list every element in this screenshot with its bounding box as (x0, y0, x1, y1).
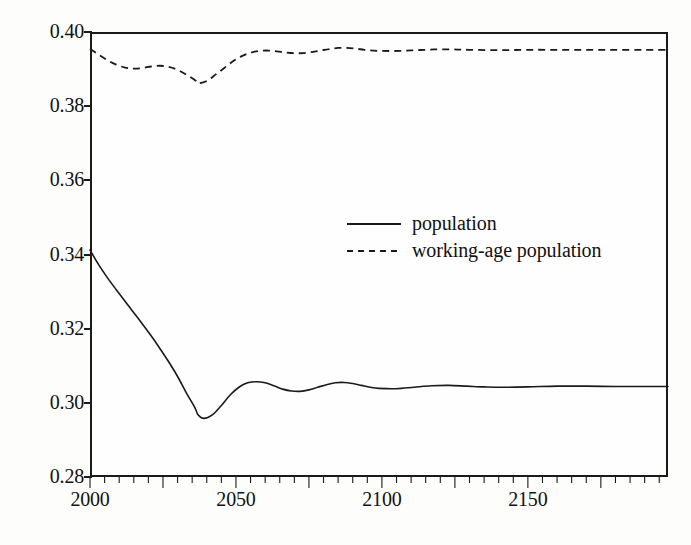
legend-item-working-age-population: working-age population (346, 237, 601, 264)
x-tick-label-2050: 2050 (181, 489, 291, 509)
y-tick-label: 0.36 (22, 169, 84, 189)
y-tick-label: 0.28 (22, 466, 84, 486)
y-tick-label: 0.38 (22, 95, 84, 115)
legend-item-population: population (346, 210, 601, 237)
legend-swatch-dashed-line (346, 244, 402, 258)
legend-label-population: population (402, 212, 497, 235)
y-tick-label: 0.32 (22, 318, 84, 338)
chart-figure: 0.400.380.360.340.320.300.28 20002050210… (0, 0, 691, 545)
y-tick-label: 0.34 (22, 244, 84, 264)
y-tick-label: 0.40 (22, 21, 84, 41)
x-tick-label-2000: 2000 (35, 489, 145, 509)
chart-legend: population working-age population (346, 210, 601, 264)
x-tick-label-2100: 2100 (327, 489, 437, 509)
x-major-ticks (90, 477, 601, 488)
series-line-working-age-population (90, 48, 668, 83)
x-tick-label-2150: 2150 (473, 489, 583, 509)
series-line-population (90, 250, 668, 418)
legend-label-working-age-population: working-age population (402, 239, 601, 262)
y-tick-label: 0.30 (22, 392, 84, 412)
legend-swatch-solid-line (346, 217, 402, 231)
